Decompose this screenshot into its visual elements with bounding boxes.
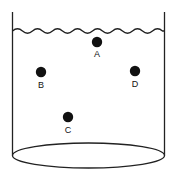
beaker-diagram — [0, 0, 176, 180]
particle-label-d: D — [127, 80, 143, 89]
liquid-surface-wave — [13, 29, 165, 34]
particle-label-a: A — [89, 50, 105, 59]
particle-label-b: B — [33, 81, 49, 90]
particle-b — [36, 67, 46, 77]
particle-a — [92, 37, 102, 47]
particle-d — [130, 66, 140, 76]
particle-label-c: C — [60, 126, 76, 135]
figure-canvas: A B C D — [0, 0, 176, 180]
cylinder-base-ellipse — [13, 143, 165, 168]
particle-c — [63, 112, 73, 122]
